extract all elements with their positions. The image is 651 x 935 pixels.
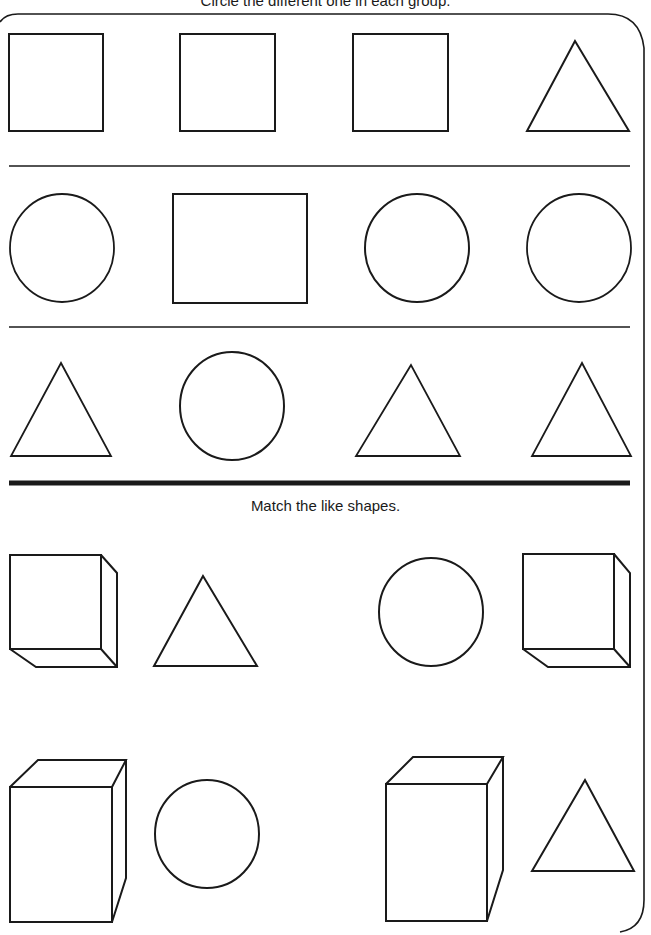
circle-shape-different[interactable] — [180, 352, 284, 460]
circle-shape[interactable] — [10, 194, 114, 302]
triangle-shape-different[interactable] — [527, 41, 629, 131]
group-1 — [9, 34, 629, 131]
cube-shape[interactable] — [523, 554, 630, 667]
circle-shape[interactable] — [527, 194, 631, 302]
circle-shape[interactable] — [155, 780, 259, 888]
triangle-shape[interactable] — [532, 363, 631, 456]
circle-shape[interactable] — [379, 558, 483, 666]
group-2 — [10, 194, 631, 303]
cube-shape[interactable] — [10, 555, 117, 667]
worksheet-frame — [0, 14, 644, 932]
square-shape-different[interactable] — [173, 194, 307, 303]
match-row-2 — [10, 757, 634, 922]
match-row-1 — [10, 554, 630, 667]
box-shape[interactable] — [10, 760, 126, 922]
circle-shape[interactable] — [365, 194, 469, 302]
square-shape[interactable] — [9, 34, 103, 131]
worksheet — [0, 0, 651, 935]
group-3 — [11, 352, 631, 460]
triangle-shape[interactable] — [532, 780, 634, 871]
box-shape[interactable] — [386, 757, 503, 921]
triangle-shape[interactable] — [11, 363, 111, 456]
triangle-shape[interactable] — [154, 576, 257, 666]
square-shape[interactable] — [180, 34, 275, 131]
triangle-shape[interactable] — [356, 365, 460, 456]
square-shape[interactable] — [353, 34, 448, 131]
